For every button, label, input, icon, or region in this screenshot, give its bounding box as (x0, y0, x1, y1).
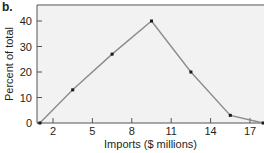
data-point-marker (71, 88, 74, 91)
y-tick-label: 0 (26, 117, 32, 129)
y-tick-label: 30 (20, 41, 32, 53)
y-tick-label: 40 (20, 15, 32, 27)
data-point-marker (38, 122, 41, 125)
x-tick-label: 5 (89, 125, 95, 137)
y-tick-label: 10 (20, 92, 32, 104)
y-axis-label: Percent of total (3, 19, 15, 109)
data-point-marker (262, 122, 264, 125)
y-tick-label: 20 (20, 66, 32, 78)
data-point-marker (150, 20, 153, 23)
x-tick-label: 14 (204, 125, 216, 137)
x-tick-label: 8 (129, 125, 135, 137)
x-tick-label: 17 (244, 125, 256, 137)
line-chart: 010203040 258111417 (0, 0, 264, 153)
data-point-marker (189, 71, 192, 74)
data-point-marker (111, 53, 114, 56)
x-axis-label: Imports ($ millions) (37, 138, 264, 150)
data-point-marker (229, 114, 232, 117)
x-tick-label: 11 (165, 125, 176, 137)
x-tick-label: 2 (50, 125, 56, 137)
